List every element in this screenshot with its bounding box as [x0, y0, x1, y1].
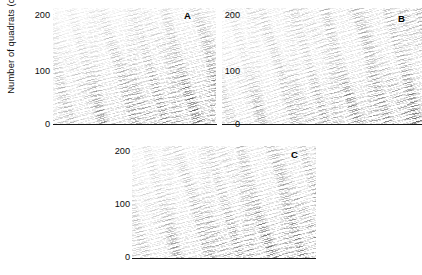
- panel-b-letter: B: [398, 13, 405, 24]
- panel-a-ytick-100: 100: [24, 67, 50, 76]
- panel-c-ytick-200: 200: [104, 147, 130, 156]
- panel-a-ytick-200: 200: [24, 11, 50, 20]
- panel-b-ytick-200: 200: [214, 11, 240, 20]
- panel-c-ytick-0: 0: [104, 253, 130, 262]
- panel-b-ytick-0: 0: [214, 120, 240, 129]
- panel-a-letter: A: [184, 10, 191, 21]
- figure-canvas: Number of quadrats (qk) 200 100 0 A: [0, 0, 422, 275]
- panel-b-baseline-axis: [222, 124, 422, 125]
- panel-c: [132, 146, 316, 259]
- y-axis-label: Number of quadrats (qk): [5, 0, 18, 107]
- panel-c-letter: C: [291, 149, 298, 160]
- panel-b-ytick-100: 100: [214, 67, 240, 76]
- y-axis-label-text: Number of quadrats (q: [5, 0, 16, 94]
- panel-b-streak-texture: [222, 8, 422, 125]
- panel-b: [222, 8, 422, 125]
- panel-a: [53, 8, 216, 125]
- panel-a-baseline-axis: [53, 124, 217, 125]
- panel-c-baseline-axis: [132, 258, 316, 259]
- panel-c-ytick-100: 100: [104, 200, 130, 209]
- panel-a-ytick-0: 0: [24, 120, 50, 129]
- panel-a-streak-texture: [53, 8, 216, 125]
- panel-c-streak-texture: [132, 146, 316, 259]
